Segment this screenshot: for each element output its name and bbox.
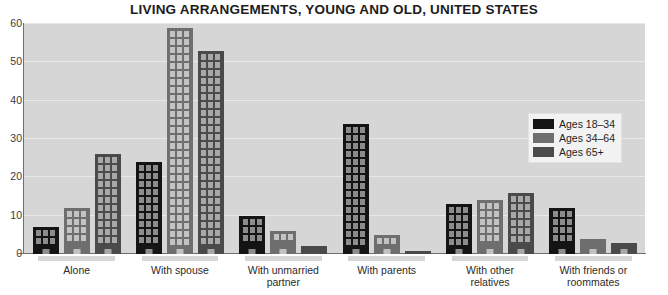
building-window <box>105 181 110 187</box>
building-window <box>177 55 182 61</box>
legend-item[interactable]: Ages 34–64 <box>533 131 615 145</box>
building-window <box>553 227 558 233</box>
building-window <box>487 235 492 241</box>
building-window <box>139 165 144 171</box>
building-window <box>360 207 365 213</box>
bar[interactable]: 3% <box>611 243 637 255</box>
building-window <box>170 31 175 37</box>
building-window <box>208 238 213 244</box>
building-window <box>112 157 117 163</box>
building-window <box>360 167 365 173</box>
bar[interactable]: 53% <box>198 51 224 254</box>
building-window <box>494 211 499 217</box>
bar[interactable]: 5% <box>374 235 400 254</box>
building-window <box>250 235 255 241</box>
legend-label: Ages 65+ <box>559 146 604 158</box>
bar[interactable]: 2% <box>301 246 327 254</box>
building-door <box>383 249 390 254</box>
building-window <box>105 221 110 227</box>
building-window <box>215 166 220 172</box>
building-door <box>73 249 80 254</box>
building-window <box>201 118 206 124</box>
legend-item[interactable]: Ages 18–34 <box>533 117 615 131</box>
building-window <box>170 191 175 197</box>
bar[interactable]: 4% <box>580 239 606 254</box>
building-window <box>201 230 206 236</box>
bar[interactable]: 26% <box>95 154 121 254</box>
building-window <box>346 135 351 141</box>
building-window <box>360 135 365 141</box>
building-window <box>449 223 454 229</box>
bar[interactable]: 24% <box>136 162 162 254</box>
legend-swatch <box>533 147 554 157</box>
building-window <box>146 229 151 235</box>
building-window <box>353 191 358 197</box>
building-window <box>456 215 461 221</box>
building-window <box>184 183 189 189</box>
building-window <box>511 228 516 234</box>
building-window <box>146 237 151 243</box>
building-window <box>81 235 86 241</box>
category-label: With friends or roommates <box>559 264 627 288</box>
building-window <box>98 189 103 195</box>
building-window <box>201 174 206 180</box>
bar[interactable]: 14% <box>477 200 503 254</box>
building-window <box>353 199 358 205</box>
legend-item[interactable]: Ages 65+ <box>533 145 615 159</box>
building-window <box>201 142 206 148</box>
building-window <box>208 198 213 204</box>
building-window <box>567 211 572 217</box>
building-window <box>177 151 182 157</box>
building-window <box>360 159 365 165</box>
building-window <box>208 174 213 180</box>
building-window <box>215 206 220 212</box>
building-window <box>170 55 175 61</box>
building-window <box>353 239 358 245</box>
building-window <box>184 127 189 133</box>
building-window <box>177 127 182 133</box>
building-window <box>487 219 492 225</box>
building-window <box>153 197 158 203</box>
building-window <box>511 220 516 226</box>
building-window <box>170 103 175 109</box>
building-window <box>360 191 365 197</box>
building-window <box>456 231 461 237</box>
building-windows <box>346 127 366 245</box>
building-window <box>360 239 365 245</box>
building-window <box>518 212 523 218</box>
bar[interactable]: 0% <box>405 251 431 254</box>
building-window <box>98 157 103 163</box>
building-windows <box>139 165 159 243</box>
building-window <box>170 135 175 141</box>
building-window <box>184 47 189 53</box>
building-window <box>346 223 351 229</box>
building-window <box>112 189 117 195</box>
bar[interactable]: 10% <box>239 216 265 254</box>
bar[interactable]: 12% <box>64 208 90 254</box>
building-window <box>346 231 351 237</box>
bar[interactable]: 16% <box>508 193 534 254</box>
building-window <box>98 197 103 203</box>
building-windows <box>98 157 118 243</box>
bar[interactable]: 13% <box>446 204 472 254</box>
building-door <box>42 249 49 254</box>
bar[interactable]: 7% <box>33 227 59 254</box>
building-window <box>215 214 220 220</box>
bar-group: 13%14%16% <box>438 23 541 254</box>
legend-label: Ages 34–64 <box>559 132 615 144</box>
building-window <box>346 151 351 157</box>
bar[interactable]: 6% <box>270 231 296 254</box>
building-window <box>112 237 117 243</box>
building-window <box>105 173 110 179</box>
bar[interactable]: 59% <box>167 28 193 254</box>
building-window <box>81 211 86 217</box>
bar[interactable]: 12% <box>549 208 575 254</box>
building-window <box>208 118 213 124</box>
building-door <box>207 249 214 254</box>
building-window <box>153 205 158 211</box>
building-window <box>360 231 365 237</box>
bar[interactable]: 34% <box>343 124 369 254</box>
building-window <box>494 203 499 209</box>
building-windows <box>67 211 87 241</box>
building-window <box>215 142 220 148</box>
